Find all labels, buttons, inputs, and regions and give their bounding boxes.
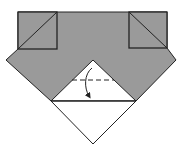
origami-diagram xyxy=(0,0,178,146)
white-bottom-triangle xyxy=(51,101,136,144)
